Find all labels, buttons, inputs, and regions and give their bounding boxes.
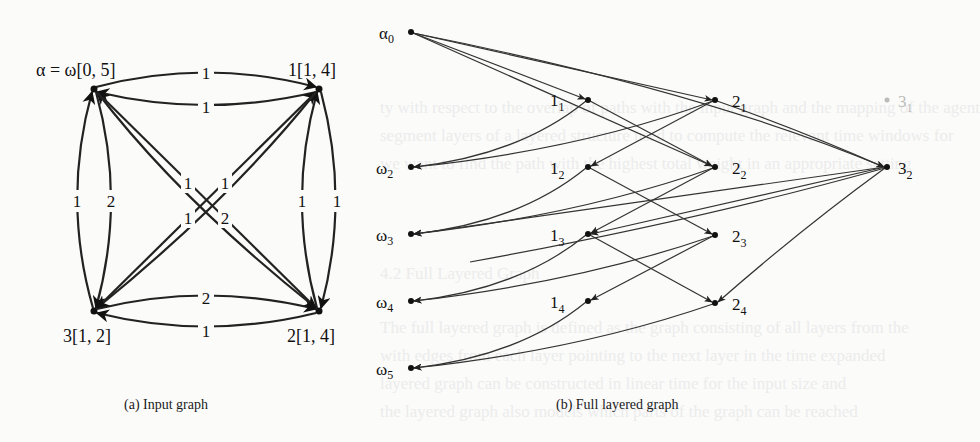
svg-text:α0: α0 (379, 24, 394, 46)
node-2_1 (712, 97, 718, 103)
svg-text:22: 22 (732, 159, 747, 182)
svg-text:11: 11 (550, 91, 565, 114)
edge-3_2-2_4 (718, 168, 885, 302)
layered-graph: α0 ω2 ω3 ω4 ω5 11 12 13 14 21 22 23 24 3… (376, 24, 913, 382)
svg-text:ω4: ω4 (376, 293, 393, 315)
weight-label: 1 (202, 98, 211, 117)
node-2 (316, 308, 323, 315)
node-2-label: 2[1, 4] (287, 326, 335, 346)
node-3 (91, 308, 98, 315)
node-2_2 (712, 164, 718, 170)
weight-label: 2 (202, 289, 211, 308)
node-w2 (408, 164, 414, 170)
layer0-labels: α0 ω2 ω3 ω4 ω5 (376, 24, 394, 382)
weight-label: 1 (202, 322, 211, 341)
node-w4 (408, 298, 414, 304)
weight-label: 1 (184, 174, 193, 193)
svg-text:ω3: ω3 (376, 226, 393, 248)
node-1 (316, 86, 323, 93)
node-alpha (91, 86, 98, 93)
node-alpha-label: α = ω[0, 5] (36, 60, 115, 80)
node-w5 (408, 365, 414, 371)
weight-label: 1 (298, 192, 307, 211)
svg-text:32: 32 (898, 159, 913, 182)
weight-label: 1 (73, 192, 82, 211)
weight-label: 2 (221, 209, 230, 228)
node-1_4 (585, 298, 591, 304)
node-3_1-faded (885, 98, 890, 103)
svg-text:14: 14 (550, 293, 565, 316)
svg-text:31: 31 (898, 92, 913, 115)
weight-label: 2 (107, 192, 116, 211)
svg-text:21: 21 (732, 92, 747, 115)
caption-layered-graph: (b) Full layered graph (556, 397, 678, 413)
weight-label: 1 (202, 64, 211, 83)
layer3-labels: 31 32 (898, 92, 913, 182)
weight-label: 1 (184, 209, 193, 228)
node-1-label: 1[1, 4] (288, 60, 336, 80)
node-3-label: 3[1, 2] (63, 326, 111, 346)
node-1_1 (585, 97, 591, 103)
caption-input-graph: (a) Input graph (124, 397, 208, 413)
weight-label: 1 (221, 174, 230, 193)
svg-text:ω2: ω2 (376, 159, 393, 181)
edge-a0-3_2 (413, 33, 884, 167)
input-graph: 1 1 2 1 1 2 1 1 1 1 1 2 (36, 60, 344, 346)
node-a0 (408, 29, 414, 35)
svg-text:ω5: ω5 (376, 360, 393, 382)
weight-label: 1 (333, 192, 342, 211)
node-1_3 (585, 231, 591, 237)
svg-text:23: 23 (732, 227, 747, 250)
svg-text:12: 12 (550, 159, 565, 182)
node-2_4 (712, 300, 718, 306)
svg-text:24: 24 (732, 295, 747, 318)
node-1_2 (585, 164, 591, 170)
node-w3 (408, 231, 414, 237)
node-2_3 (712, 232, 718, 238)
edge-3_2-w3 (414, 167, 885, 234)
node-3_2 (884, 164, 890, 170)
